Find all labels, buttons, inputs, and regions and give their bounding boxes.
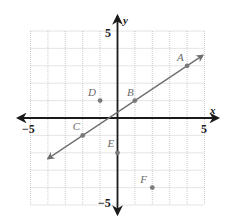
point-label-f: F <box>139 173 147 185</box>
point-label-b: B <box>127 86 134 98</box>
point-label-a: A <box>176 51 184 63</box>
y-max-tick-label: 5 <box>105 26 111 40</box>
x-max-tick-label: 5 <box>201 122 207 136</box>
x-axis-label: x <box>209 104 216 116</box>
y-min-tick-label: −5 <box>98 196 111 210</box>
coordinate-plane: ABCDEF −5 5 5 −5 x y <box>0 0 234 221</box>
point-b <box>133 98 138 103</box>
point-label-e: E <box>107 137 115 149</box>
line-through-c-b-a <box>48 55 203 158</box>
x-min-tick-label: −5 <box>22 122 35 136</box>
point-d <box>98 98 103 103</box>
y-axis-label: y <box>121 14 128 26</box>
point-label-d: D <box>87 86 96 98</box>
point-a <box>185 63 190 68</box>
point-c <box>80 133 85 138</box>
points: ABCDEF <box>73 51 190 190</box>
point-e <box>115 150 120 155</box>
point-label-c: C <box>73 120 81 132</box>
point-f <box>150 185 155 190</box>
